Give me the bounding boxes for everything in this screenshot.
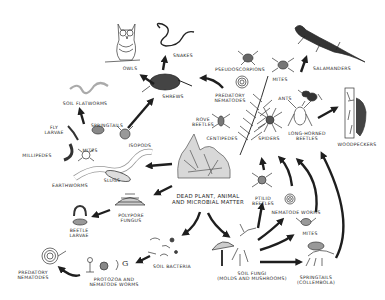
label-long-horned-beetles: Long-hornedBeetles	[288, 131, 326, 142]
label-line: Beetles	[296, 136, 318, 141]
label-snakes: Snakes	[173, 53, 193, 58]
label-line: (Collembola)	[297, 280, 335, 285]
label-line: Beetle	[70, 228, 89, 233]
label-ptilid-beetles: PtilidBeetles	[252, 196, 274, 207]
label-woodpeckers: Woodpeckers	[338, 142, 377, 147]
label-line: Protozoa and	[94, 277, 134, 282]
label-line: Dead plant, animal	[176, 193, 239, 199]
rove-beetle-illustration	[212, 114, 230, 128]
label-line: Predatory	[18, 270, 47, 275]
label-soil-fungi: Soil fungi(molds and mushrooms)	[217, 271, 286, 282]
long-horned-beetle-illustration	[288, 100, 312, 126]
soil-fungi-illustration	[212, 224, 256, 266]
label-mites-left: Mites	[82, 148, 97, 153]
spider-illustration	[258, 108, 282, 132]
label-beetle-larvae: BeetleLarvae	[69, 228, 88, 239]
ant-illustration	[298, 90, 322, 106]
label-salamanders: Salamanders	[313, 66, 351, 71]
label-rove-beetles: RoveBeetles	[192, 117, 214, 128]
protozoa-illustration: G	[86, 258, 128, 273]
label-line: nematode worms	[89, 282, 138, 287]
mite-illustration-right	[296, 218, 316, 226]
food-web-drawing: G	[0, 0, 385, 300]
label-owls: Owls	[123, 66, 138, 71]
label-springtails-small: Springtails	[91, 123, 123, 128]
beetle-larvae-illustration	[73, 206, 87, 225]
label-line: Larvae	[44, 130, 63, 135]
owl-illustration	[105, 24, 140, 62]
label-line: and microbial matter	[172, 199, 244, 205]
label-line: Predatory	[215, 93, 244, 98]
label-slugs: Slugs	[104, 178, 120, 183]
label-mites-right: Mites	[302, 231, 317, 236]
millipede-illustration	[64, 144, 72, 160]
ptilid-beetle-illustration	[252, 173, 272, 187]
label-nematode-worms: Nematode worms	[271, 210, 320, 215]
label-line: Ptilid	[255, 196, 271, 201]
springtail-illustration	[306, 242, 334, 266]
label-line: (molds and mushrooms)	[217, 276, 286, 281]
label-millipedes: Millipedes	[22, 153, 51, 158]
label-line: Long-horned	[288, 131, 326, 136]
label-isopods: Isopods	[129, 143, 151, 148]
label-mites-top: Mites	[272, 77, 287, 82]
label-centipedes: Centipedes	[206, 136, 237, 141]
flatworm-illustration	[70, 83, 108, 93]
label-pseudoscorpions: Pseudoscorpions	[215, 67, 265, 72]
label-polypore-fungus: PolyporeFungus	[118, 213, 144, 224]
pseudoscorpion-illustration	[238, 51, 258, 65]
label-line: Beetles	[252, 201, 274, 206]
label-fly-larvae: FlyLarvae	[44, 125, 63, 136]
polypore-illustration	[115, 194, 145, 205]
nematode-spiral-top	[236, 76, 248, 88]
svg-text:G: G	[122, 259, 128, 268]
soil-bacteria-illustration	[148, 238, 178, 256]
label-ants: Ants	[278, 96, 291, 101]
woodpecker-illustration	[345, 88, 366, 138]
label-soil-flatworms: Soil flatworms	[63, 101, 108, 106]
label-line: Polypore	[118, 213, 144, 218]
label-soil-bacteria: Soil bacteria	[153, 264, 191, 269]
label-line: Rove	[196, 117, 210, 122]
label-line: Fly	[50, 125, 58, 130]
label-line: Soil fungi	[238, 271, 267, 276]
nematode-spiral-bottom	[42, 248, 66, 264]
label-line: Springtails	[300, 275, 332, 280]
label-springtails: Springtails(Collembola)	[297, 275, 335, 286]
label-predatory-nematodes-top: PredatoryNematodes	[214, 93, 245, 104]
mite-illustration-top	[272, 58, 294, 72]
label-spiders: Spiders	[258, 136, 279, 141]
label-line: Larvae	[69, 233, 88, 238]
label-line: Beetles	[192, 122, 214, 127]
label-dead-matter: Dead plant, animaland microbial matter	[172, 193, 244, 205]
label-shrews: Shrews	[162, 94, 183, 99]
label-protozoa-nematode-worms: Protozoa andnematode worms	[89, 277, 138, 288]
snake-illustration	[157, 24, 194, 47]
label-line: Fungus	[121, 218, 142, 223]
nematode-worms-illustration	[285, 194, 295, 204]
label-line: Nematodes	[17, 275, 48, 280]
label-predatory-nematodes-bottom: PredatoryNematodes	[17, 270, 48, 281]
salamander-illustration	[295, 25, 365, 62]
shrew-illustration	[142, 74, 192, 92]
label-earthworms: Earthworms	[52, 183, 88, 188]
fly-larvae-illustration	[68, 126, 78, 140]
label-line: Nematodes	[214, 98, 245, 103]
